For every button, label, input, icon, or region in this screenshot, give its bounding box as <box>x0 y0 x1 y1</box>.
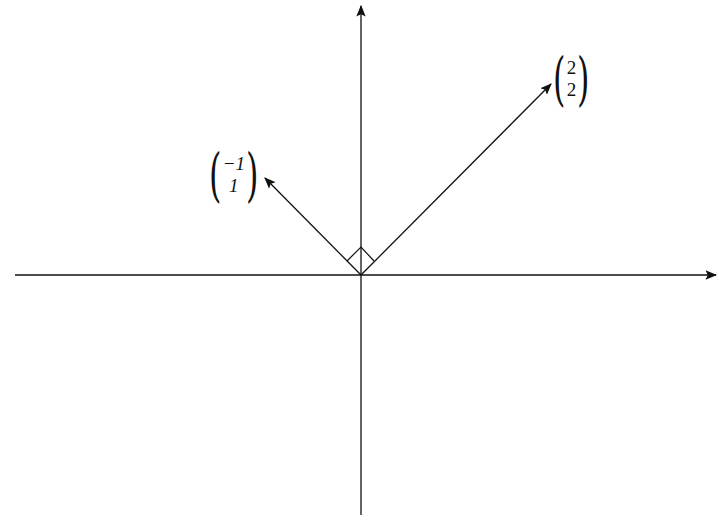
vector-entries: 2 2 <box>567 57 577 101</box>
right-paren: ) <box>246 146 258 204</box>
vector-entry-top: 2 <box>567 57 577 79</box>
vector-neg1-1 <box>265 178 361 275</box>
vector-label-2-2: ( 2 2 ) <box>548 50 595 108</box>
left-paren: ( <box>209 146 221 204</box>
vector-diagram <box>0 0 719 532</box>
vector-2-2 <box>361 84 551 275</box>
vector-entry-bottom: 1 <box>229 175 239 197</box>
vector-label-neg1-1: ( −1 1 ) <box>204 146 264 204</box>
right-paren: ) <box>577 50 589 108</box>
left-paren: ( <box>553 50 565 108</box>
vector-entries: −1 1 <box>223 153 245 197</box>
vector-entry-top: −1 <box>223 153 245 175</box>
vector-entry-bottom: 2 <box>567 79 577 101</box>
